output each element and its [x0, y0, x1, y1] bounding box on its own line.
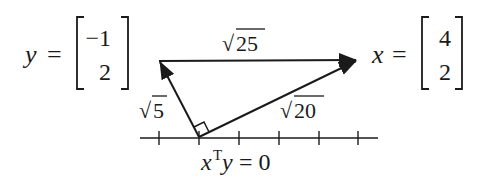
- orthogonality-diagram: y = −1 2 x = 4 2 √ 25 √ 5 √ 20 x T y = 0: [0, 0, 486, 191]
- vector-x-arrow: [199, 61, 356, 137]
- radical-sign: √: [280, 98, 293, 123]
- vector-y-label: y: [22, 40, 37, 69]
- difference-vector-arrow: [159, 60, 356, 61]
- right-bracket: [455, 17, 462, 89]
- vector-x-equals: =: [392, 40, 407, 69]
- caption-y: y: [220, 149, 233, 175]
- vector-y-definition: y = −1 2: [22, 17, 128, 89]
- orthogonality-caption: x T y = 0: [200, 147, 271, 175]
- y-length-label: √ 5: [139, 96, 167, 123]
- left-bracket: [77, 17, 84, 89]
- hypotenuse-length-value: 25: [236, 31, 258, 56]
- x-length-label: √ 20: [280, 96, 324, 123]
- vector-x-component-1: 4: [439, 25, 451, 51]
- caption-transpose: T: [213, 147, 222, 163]
- x-length-value: 20: [294, 98, 316, 123]
- vector-x-label: x: [371, 40, 384, 69]
- vector-y-component-1: −1: [85, 25, 111, 51]
- left-bracket: [422, 17, 429, 89]
- radical-sign: √: [222, 31, 235, 56]
- number-line: [140, 131, 378, 145]
- caption-equals-zero: = 0: [233, 149, 271, 175]
- vector-x-definition: x = 4 2: [371, 17, 462, 89]
- vector-y-arrow: [160, 62, 199, 137]
- vector-y-component-2: 2: [99, 59, 111, 85]
- vector-x-component-2: 2: [439, 59, 451, 85]
- caption-x: x: [200, 149, 212, 175]
- right-bracket: [121, 17, 128, 89]
- radical-sign: √: [139, 98, 152, 123]
- y-length-value: 5: [153, 98, 164, 123]
- hypotenuse-length-label: √ 25: [222, 29, 265, 56]
- vector-y-equals: =: [47, 40, 62, 69]
